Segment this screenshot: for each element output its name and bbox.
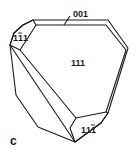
label-1-11: 1 1 1 <box>13 33 28 43</box>
panel-label: c <box>10 134 17 148</box>
svg-text:1: 1 <box>91 125 96 135</box>
left-strip-edge-outer <box>10 45 75 142</box>
label-11-1: 1 1 1 <box>81 125 96 135</box>
right-strip-edge <box>106 50 126 112</box>
svg-text:1: 1 <box>23 33 28 43</box>
crystal-diagram: 001 111 1 1 1 1 1 1 c <box>0 0 136 149</box>
label-001: 001 <box>73 9 88 19</box>
face-001-edge <box>36 25 126 50</box>
label-111: 111 <box>71 58 85 68</box>
left-strip-edge-inner <box>20 50 76 118</box>
